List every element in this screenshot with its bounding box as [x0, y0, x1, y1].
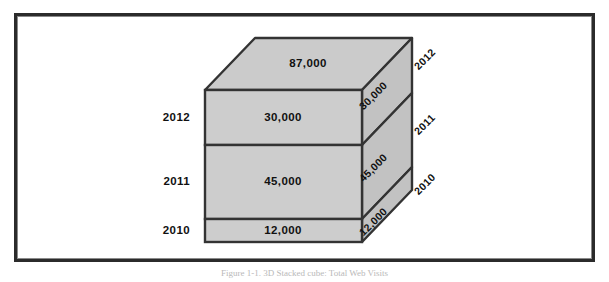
cube-top-face-total-value: 87,000	[258, 57, 358, 69]
axis-year-left-2011: 2011	[135, 175, 190, 187]
axis-year-left-2012: 2012	[135, 111, 190, 123]
cube-front-value-2012: 30,000	[233, 111, 333, 123]
cube-front-value-2010: 12,000	[233, 224, 333, 236]
cube-front-value-2011: 45,000	[233, 175, 333, 187]
stacked-cube-chart: 87,000 30,000 45,000 12,000 2012 2011 20…	[0, 0, 609, 282]
figure-caption: Figure 1-1. 3D Stacked cube: Total Web V…	[0, 268, 609, 278]
cube-geometry-svg	[0, 0, 609, 282]
axis-year-left-2010: 2010	[135, 224, 190, 236]
figure-page: 87,000 30,000 45,000 12,000 2012 2011 20…	[0, 0, 609, 282]
